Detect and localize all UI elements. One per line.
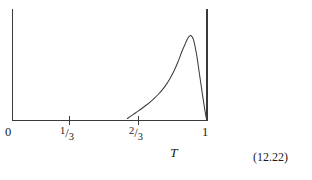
equation-number: (12.22) — [253, 150, 288, 165]
fraction-one-third: 1/3 — [60, 126, 74, 142]
figure-container: 0 1/3 2/3 1 T (12.22) — [0, 0, 312, 180]
x-tick-label-0: 0 — [5, 126, 11, 139]
x-tick-label-1-text: 1 — [202, 125, 208, 139]
data-curve — [127, 36, 207, 121]
fraction-denominator: 3 — [69, 131, 74, 142]
x-tick-label-0-text: 0 — [5, 125, 11, 139]
fraction-denominator: 3 — [138, 131, 143, 142]
fraction-two-thirds: 2/3 — [129, 126, 143, 142]
x-axis-label: T — [170, 145, 178, 161]
x-tick-label-two-thirds: 2/3 — [129, 126, 143, 142]
x-tick-label-1: 1 — [202, 126, 208, 139]
x-tick-label-one-third: 1/3 — [60, 126, 74, 142]
